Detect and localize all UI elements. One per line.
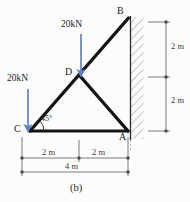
node-label-C: C	[14, 124, 21, 134]
node-label-A: A	[119, 132, 126, 142]
vertical-dim-label-upper: 2 m	[171, 42, 184, 51]
horizontal-dim-label-right: 2 m	[92, 148, 105, 157]
angle-label-45: 45°	[41, 115, 52, 123]
fixed-support-wall	[131, 16, 144, 152]
vertical-dim-label-lower: 2 m	[171, 96, 184, 105]
figure-caption: (b)	[70, 183, 82, 194]
load-label-C: 20kN	[7, 74, 28, 84]
truss-diagram-figure: B D C A 20kN 20kN 45° 2 m 2 m 2 m 2 m 4 …	[0, 0, 190, 202]
node-label-D: D	[65, 67, 72, 77]
node-label-B: B	[117, 6, 124, 16]
horizontal-dim-label-total: 4 m	[65, 162, 78, 171]
horizontal-dim-label-left: 2 m	[42, 148, 55, 157]
diagram-canvas	[0, 0, 190, 202]
vertical-dimension-group	[148, 20, 170, 132]
load-label-D: 20kN	[61, 20, 82, 30]
member-D-A	[80, 76, 128, 131]
